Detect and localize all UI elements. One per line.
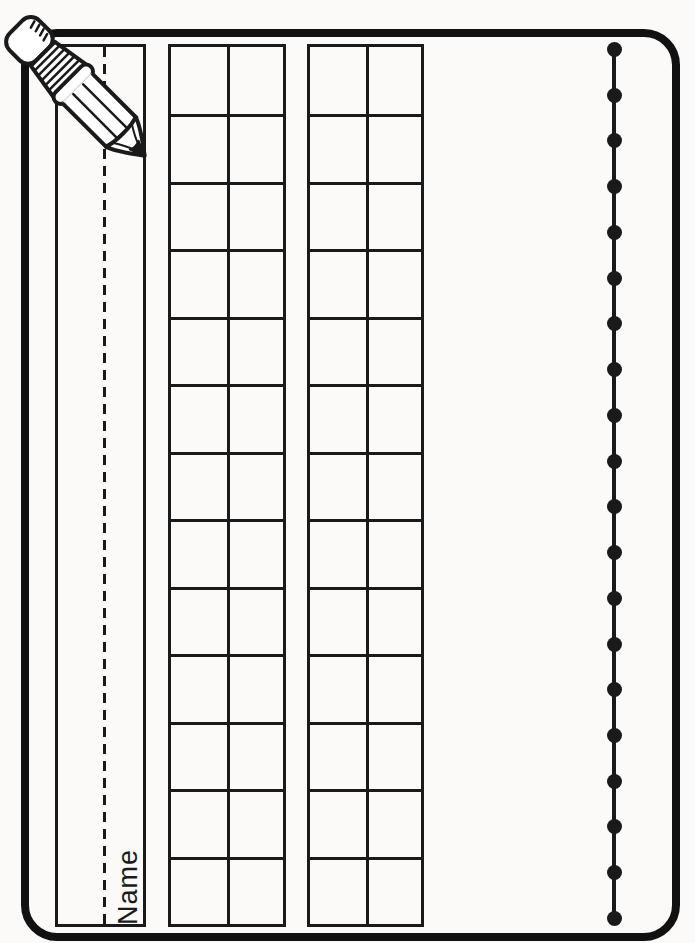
grid-cell (310, 114, 366, 181)
grid-cell (366, 452, 422, 519)
grid-cell (310, 857, 366, 924)
grid-cell (227, 587, 283, 654)
grid-cell (171, 789, 227, 856)
bead-dot (607, 271, 622, 286)
bead-dot (607, 637, 622, 652)
bead-dot (607, 316, 622, 331)
grid-cell (227, 722, 283, 789)
grid-cell (366, 47, 422, 114)
pencil-icon (0, 0, 200, 200)
grid-cell (171, 857, 227, 924)
grid-cell (227, 317, 283, 384)
grid-cell (310, 384, 366, 451)
bead-dot (607, 133, 622, 148)
grid-cell (366, 519, 422, 586)
grid-cell (171, 384, 227, 451)
bead-dot (607, 728, 622, 743)
grid-cell (366, 722, 422, 789)
bead-dot (607, 362, 622, 377)
grid-cell (227, 182, 283, 249)
grid-cell (366, 654, 422, 721)
grid-cell (227, 384, 283, 451)
bead-dot (607, 682, 622, 697)
grid-cell (310, 654, 366, 721)
bead-dot (607, 819, 622, 834)
beaded-cut-line (598, 42, 630, 926)
grid-cell (310, 249, 366, 316)
bead-dot (607, 865, 622, 880)
grid-cell (366, 384, 422, 451)
grid-cell (310, 47, 366, 114)
grid-cell (310, 519, 366, 586)
grid-cell (227, 47, 283, 114)
grid-cell (227, 452, 283, 519)
grid-cell (171, 519, 227, 586)
grid-cell (171, 249, 227, 316)
bead-dot (607, 408, 622, 423)
worksheet-page: Name (0, 0, 695, 943)
grid-cell (227, 519, 283, 586)
bead-dot (607, 774, 622, 789)
grid-cell (310, 182, 366, 249)
grid-cell (310, 789, 366, 856)
grid-cell (227, 114, 283, 181)
name-label: Name (113, 849, 143, 925)
grid-cell (366, 789, 422, 856)
grid-cell (366, 857, 422, 924)
grid-cell (227, 249, 283, 316)
bead-dot (607, 911, 622, 926)
bead-dot (607, 454, 622, 469)
answer-grid-2 (307, 44, 424, 927)
bead-dot (607, 225, 622, 240)
grid-cell (366, 182, 422, 249)
bead-dot (607, 545, 622, 560)
grid-cell (310, 587, 366, 654)
grid-cell (171, 452, 227, 519)
grid-cell (366, 317, 422, 384)
bead-dot (607, 88, 622, 103)
grid-cell (366, 249, 422, 316)
bead-dot (607, 499, 622, 514)
bead-dot (607, 42, 622, 57)
grid-cell (227, 857, 283, 924)
grid-cell (171, 654, 227, 721)
grid-cell (310, 722, 366, 789)
grid-cell (366, 114, 422, 181)
grid-cell (310, 452, 366, 519)
grid-cell (227, 654, 283, 721)
grid-cell (171, 722, 227, 789)
grid-cell (227, 789, 283, 856)
bead-dot (607, 179, 622, 194)
bead-dot (607, 591, 622, 606)
grid-cell (171, 587, 227, 654)
grid-cell (171, 317, 227, 384)
grid-cell (310, 317, 366, 384)
grid-cell (366, 587, 422, 654)
